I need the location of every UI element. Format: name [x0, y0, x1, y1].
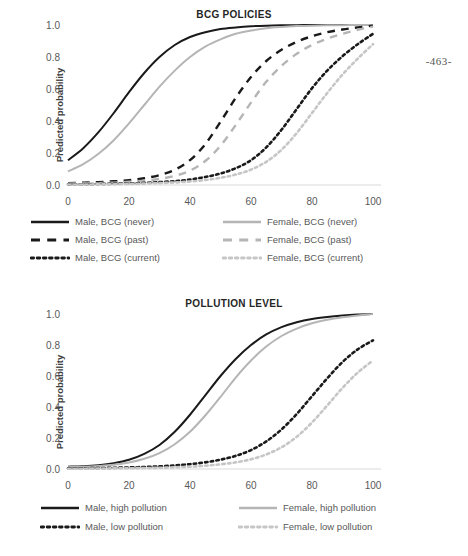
- legend-key-male-bcg-never: [30, 217, 70, 227]
- legend-label-female-bcg-past: Female, BCG (past): [267, 234, 351, 245]
- legend-item-male-bcg-current[interactable]: Male, BCG (current): [30, 252, 160, 263]
- legend-pollution: Male, high pollution Male, low pollution…: [0, 494, 468, 540]
- legend-key-male-low-pollution: [40, 522, 80, 532]
- legend-item-male-bcg-never[interactable]: Male, BCG (never): [30, 216, 154, 227]
- legend-label-male-high-pollution: Male, high pollution: [85, 502, 167, 513]
- legend-item-female-bcg-current[interactable]: Female, BCG (current): [222, 252, 363, 263]
- legend-key-female-bcg-never: [222, 217, 262, 227]
- legend-key-male-bcg-past: [30, 235, 70, 245]
- series-line: [68, 314, 373, 467]
- series-line: [68, 26, 373, 183]
- x-tick-pollution-4: 80: [306, 480, 317, 491]
- legend-label-female-bcg-current: Female, BCG (current): [267, 252, 363, 263]
- legend-label-female-high-pollution: Female, high pollution: [283, 502, 376, 513]
- plot-area-pollution: Predicted probability 0.0 0.2 0.4 0.6 0.…: [0, 309, 468, 494]
- legend-key-male-high-pollution: [40, 503, 80, 513]
- chart-title-bcg: BCG POLICIES: [0, 0, 468, 20]
- x-tick-pollution-0: 0: [65, 480, 71, 491]
- legend-item-female-high-pollution[interactable]: Female, high pollution: [238, 502, 376, 513]
- x-tick-bcg-1: 20: [123, 196, 134, 207]
- legend-label-male-bcg-never: Male, BCG (never): [75, 216, 154, 227]
- plot-area-bcg: Predicted probability 0.0 0.2 0.4 0.6 0.…: [0, 20, 468, 210]
- x-tick-pollution-5: 100: [365, 480, 382, 491]
- series-line: [68, 25, 373, 171]
- legend-key-female-high-pollution: [238, 503, 278, 513]
- legend-item-female-low-pollution[interactable]: Female, low pollution: [238, 521, 372, 532]
- x-tick-bcg-3: 60: [245, 196, 256, 207]
- x-tick-pollution-1: 20: [123, 480, 134, 491]
- legend-item-male-high-pollution[interactable]: Male, high pollution: [40, 502, 167, 513]
- legend-item-male-low-pollution[interactable]: Male, low pollution: [40, 521, 163, 532]
- chart-title-pollution: POLLUTION LEVEL: [0, 286, 468, 309]
- series-line: [68, 27, 373, 184]
- legend-label-female-low-pollution: Female, low pollution: [283, 521, 372, 532]
- plot-canvas-bcg: [0, 20, 468, 210]
- legend-key-female-bcg-current: [222, 253, 262, 263]
- legend-key-male-bcg-current: [30, 253, 70, 263]
- x-tick-pollution-3: 60: [245, 480, 256, 491]
- series-line: [68, 314, 373, 467]
- legend-item-female-bcg-past[interactable]: Female, BCG (past): [222, 234, 351, 245]
- x-tick-pollution-2: 40: [184, 480, 195, 491]
- figure-pollution-level: POLLUTION LEVEL Predicted probability 0.…: [0, 286, 468, 556]
- legend-label-male-low-pollution: Male, low pollution: [85, 521, 163, 532]
- legend-bcg: Male, BCG (never) Male, BCG (past) Male,…: [0, 210, 468, 272]
- legend-item-female-bcg-never[interactable]: Female, BCG (never): [222, 216, 357, 227]
- legend-label-male-bcg-past: Male, BCG (past): [75, 234, 148, 245]
- plot-canvas-pollution: [0, 309, 468, 494]
- legend-label-male-bcg-current: Male, BCG (current): [75, 252, 160, 263]
- figure-bcg-policies: BCG POLICIES Predicted probability 0.0 0…: [0, 0, 468, 286]
- x-tick-bcg-0: 0: [65, 196, 71, 207]
- legend-label-female-bcg-never: Female, BCG (never): [267, 216, 357, 227]
- legend-key-female-low-pollution: [238, 522, 278, 532]
- x-tick-bcg-2: 40: [184, 196, 195, 207]
- series-line: [68, 34, 373, 185]
- legend-key-female-bcg-past: [222, 235, 262, 245]
- x-tick-bcg-4: 80: [306, 196, 317, 207]
- x-tick-bcg-5: 100: [365, 196, 382, 207]
- legend-item-male-bcg-past[interactable]: Male, BCG (past): [30, 234, 148, 245]
